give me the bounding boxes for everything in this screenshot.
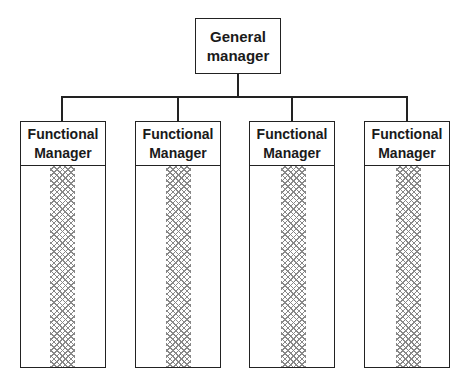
- functional-manager-box-3: Functional Manager: [249, 121, 335, 368]
- functional-manager-label: Functional Manager: [257, 125, 328, 163]
- functional-manager-header: Functional Manager: [365, 122, 449, 166]
- connector-drop-3: [291, 96, 293, 122]
- hatched-stripe: [396, 166, 421, 367]
- connector-root-down: [237, 73, 239, 97]
- functional-manager-label: Functional Manager: [28, 125, 99, 163]
- hatched-stripe: [50, 166, 75, 367]
- functional-manager-box-2: Functional Manager: [135, 121, 221, 368]
- functional-manager-header: Functional Manager: [21, 122, 105, 166]
- functional-manager-header: Functional Manager: [250, 122, 334, 166]
- general-manager-box: General manager: [195, 18, 281, 74]
- functional-manager-box-1: Functional Manager: [20, 121, 106, 368]
- connector-drop-4: [406, 96, 408, 122]
- connector-drop-2: [177, 96, 179, 122]
- general-manager-label: General manager: [207, 27, 270, 65]
- functional-manager-label: Functional Manager: [143, 125, 214, 163]
- hatched-stripe: [281, 166, 306, 367]
- functional-manager-box-4: Functional Manager: [364, 121, 450, 368]
- hatched-stripe: [166, 166, 191, 367]
- functional-manager-label: Functional Manager: [372, 125, 443, 163]
- functional-manager-header: Functional Manager: [136, 122, 220, 166]
- connector-horizontal: [61, 96, 408, 98]
- connector-drop-1: [61, 96, 63, 122]
